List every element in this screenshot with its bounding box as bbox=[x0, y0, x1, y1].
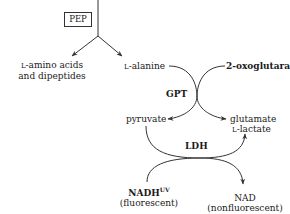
ldh-curve-pyruvate-to-nad bbox=[146, 126, 243, 184]
uv-superscript: UV bbox=[160, 186, 170, 193]
pathway-arrows bbox=[0, 0, 290, 214]
nadh-label: NADHUV (fluorescent) bbox=[118, 185, 180, 208]
nonfluorescent-note: (nonfluorescent) bbox=[207, 203, 282, 213]
nad-text: NAD bbox=[234, 193, 256, 203]
lactate-text: -lactate bbox=[237, 124, 271, 134]
nad-label: NAD (nonfluorescent) bbox=[205, 193, 285, 213]
ldh-enzyme-label: LDH bbox=[185, 141, 208, 151]
lactate-label: L-lactate bbox=[232, 124, 271, 135]
oxoglutarate-label: 2-oxoglutarate bbox=[226, 61, 290, 71]
arrow-to-amino-acids bbox=[72, 36, 98, 56]
arrow-to-alanine bbox=[98, 36, 122, 56]
nadh-text: NADH bbox=[128, 188, 160, 198]
alanine-label: L-alanine bbox=[124, 61, 165, 72]
fluorescent-note: (fluorescent) bbox=[120, 198, 178, 208]
amino-acids-text: -amino acids bbox=[26, 60, 84, 70]
alanine-text: -alanine bbox=[129, 61, 165, 71]
pyruvate-label: pyruvate bbox=[126, 114, 166, 124]
amino-acids-label: L-amino acids and dipeptides bbox=[18, 60, 86, 81]
glutamate-label: glutamate bbox=[230, 114, 276, 124]
gpt-enzyme-label: GPT bbox=[166, 89, 187, 99]
dipeptides-text: and dipeptides bbox=[18, 71, 85, 81]
pep-box: PEP bbox=[64, 12, 92, 27]
